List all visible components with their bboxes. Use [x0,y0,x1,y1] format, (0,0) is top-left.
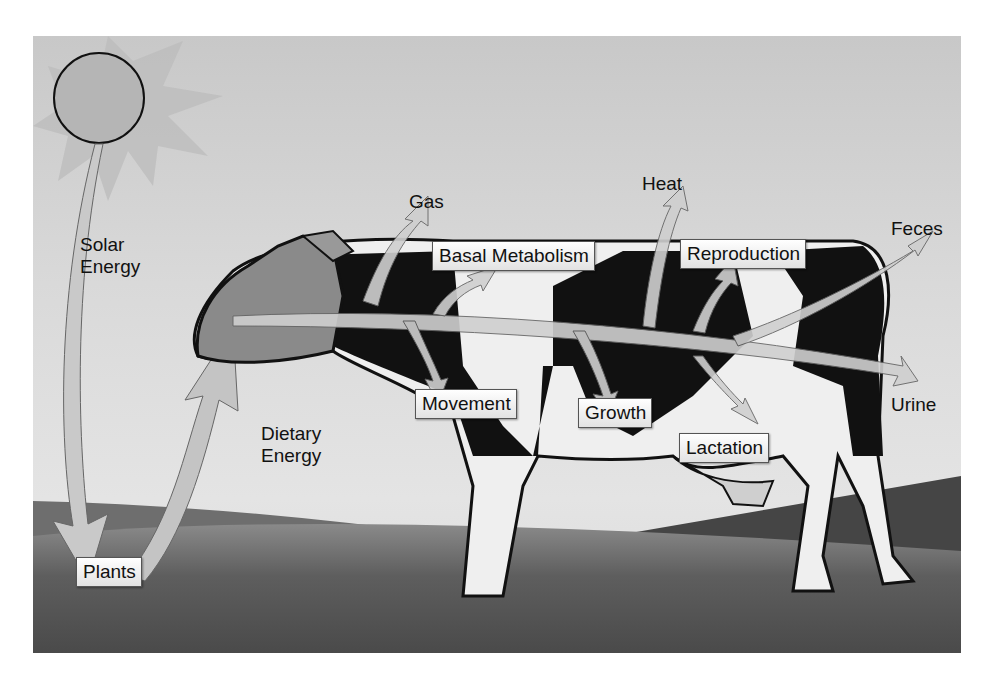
scene-illustration [33,36,961,653]
box-reproduction: Reproduction [680,239,806,269]
dietary-energy-line1: Dietary [261,423,321,445]
label-heat: Heat [642,173,682,195]
diagram-frame: Solar Energy Dietary Energy Gas Heat Fec… [33,36,961,653]
box-growth: Growth [578,398,652,428]
box-plants: Plants [76,557,142,587]
box-lactation: Lactation [679,433,769,463]
box-movement: Movement [415,389,517,419]
label-feces: Feces [891,218,943,240]
sun-icon [33,36,223,201]
box-basal-metabolism: Basal Metabolism [432,241,595,271]
label-dietary-energy: Dietary Energy [261,423,321,467]
solar-energy-line1: Solar [80,234,140,256]
label-solar-energy: Solar Energy [80,234,140,278]
label-gas: Gas [409,191,444,213]
solar-energy-line2: Energy [80,256,140,278]
label-urine: Urine [891,394,936,416]
dietary-energy-line2: Energy [261,445,321,467]
